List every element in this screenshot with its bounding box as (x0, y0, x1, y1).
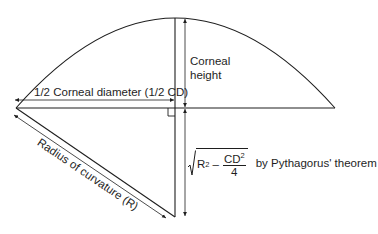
corneal-height-label-line1: Corneal (190, 55, 230, 68)
formula-denominator: 4 (231, 166, 237, 178)
radicand: R2 – CD2 4 (196, 148, 248, 178)
formula-numerator: CD2 (223, 150, 246, 166)
square-root: R2 – CD2 4 (188, 148, 248, 178)
corneal-geometry-diagram (0, 0, 378, 234)
formula-r-exponent: 2 (205, 160, 209, 169)
radius-dimension-arrow (14, 115, 166, 218)
right-angle-marker (168, 108, 175, 116)
formula-cd: CD (224, 153, 241, 165)
radius-line (16, 108, 175, 217)
radical-sign-icon (188, 150, 196, 176)
formula-note: by Pythagorus' theorem (256, 157, 377, 169)
formula-fraction: CD2 4 (223, 150, 246, 178)
formula-r: R (197, 158, 205, 170)
formula-cd-exponent: 2 (241, 151, 245, 160)
formula-minus: – (212, 158, 218, 170)
corneal-height-label-line2: height (190, 69, 230, 82)
half-diameter-label: 1/2 Corneal diameter (1/2 CD) (34, 86, 188, 99)
pythagoras-formula: R2 – CD2 4 by Pythagorus' theorem (188, 148, 377, 178)
corneal-height-label: Corneal height (190, 55, 230, 82)
